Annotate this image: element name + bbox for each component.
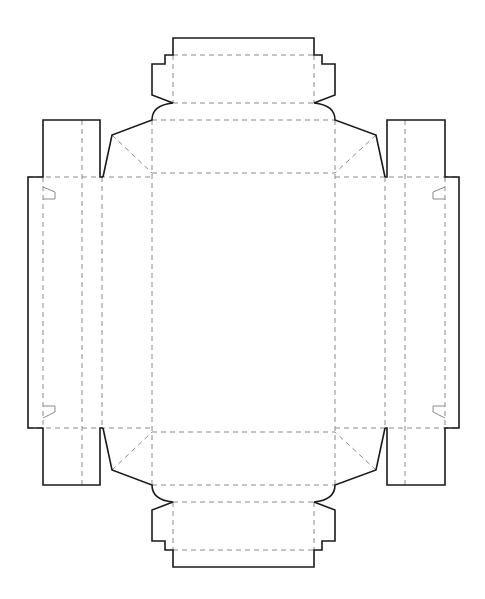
box-dieline-diagram <box>0 0 485 599</box>
cut-lines <box>28 38 459 567</box>
diag-bottom-right <box>335 432 376 470</box>
outline-top <box>103 38 385 177</box>
lock-slots <box>43 187 445 418</box>
diag-top-right <box>335 135 376 173</box>
slot-right-bottom <box>433 406 445 418</box>
right-panel <box>385 120 459 485</box>
slot-right-top <box>433 187 445 199</box>
diag-bottom-left <box>112 432 152 470</box>
slot-left-top <box>43 187 55 199</box>
fold-lines <box>28 55 459 550</box>
diag-top-left <box>112 135 152 173</box>
left-panel <box>28 120 103 485</box>
slot-left-bottom <box>43 406 55 418</box>
outline-bottom <box>103 428 385 567</box>
